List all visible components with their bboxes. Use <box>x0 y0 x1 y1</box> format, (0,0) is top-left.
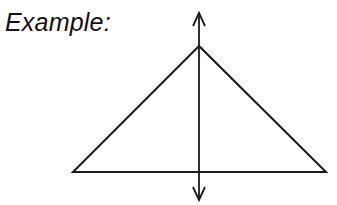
triangle-diagram <box>0 0 337 205</box>
